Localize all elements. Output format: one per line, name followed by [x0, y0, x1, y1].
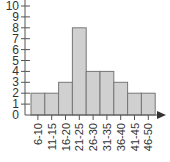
x-tick-label: 11-15	[46, 123, 58, 150]
x-tick-label: 46-50	[142, 123, 154, 151]
bars	[31, 28, 155, 115]
bar-36-40	[114, 82, 128, 115]
x-axis: 6-1011-1516-2021-2526-3031-3536-4041-454…	[25, 111, 166, 151]
bar-6-10	[31, 93, 45, 115]
bar-26-30	[86, 71, 100, 115]
x-tick-label: 31-35	[101, 123, 113, 151]
x-tick-label: 21-25	[73, 123, 85, 151]
histogram-chart: 012345678910 6-1011-1516-2021-2526-3031-…	[0, 0, 170, 162]
bar-31-35	[100, 71, 114, 115]
x-tick-label: 6-10	[32, 123, 44, 145]
bar-41-45	[128, 93, 142, 115]
bar-11-15	[45, 93, 59, 115]
bar-21-25	[72, 28, 86, 115]
x-tick-label: 16-20	[60, 123, 72, 151]
bar-16-20	[59, 82, 73, 115]
x-axis-arrow-icon	[157, 111, 166, 119]
x-tick-label: 26-30	[87, 123, 99, 151]
bar-46-50	[141, 93, 155, 115]
x-tick-label: 36-40	[115, 123, 127, 151]
y-tick-label: 10	[6, 0, 20, 13]
x-tick-label: 41-45	[129, 123, 141, 151]
y-axis: 012345678910	[6, 0, 30, 122]
